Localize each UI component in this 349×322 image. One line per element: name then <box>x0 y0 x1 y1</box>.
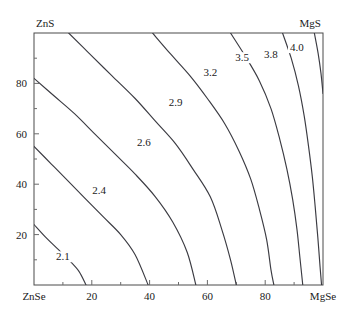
plot-frame <box>34 33 323 285</box>
y-axis-tick-label: 20 <box>16 229 28 241</box>
contour-line <box>231 33 303 285</box>
contour-label: 3.8 <box>264 48 278 60</box>
x-axis-tick-label: 60 <box>202 290 214 302</box>
contour-line <box>34 146 148 285</box>
contour-label: 3.5 <box>235 51 249 63</box>
y-axis-tick-label: 80 <box>16 77 28 89</box>
contour-chart: ZnSe20406080MgSe20406080ZnSMgS2.12.42.62… <box>0 0 349 322</box>
y-axis-tick-label: 40 <box>16 178 28 190</box>
x-axis-tick-label: 20 <box>86 290 98 302</box>
contour-label: 3.2 <box>203 66 217 78</box>
corner-label-top-right: MgS <box>300 17 321 29</box>
contour-layer <box>34 33 323 285</box>
corner-label-top-left: ZnS <box>36 17 54 29</box>
x-axis-tick-label: 80 <box>260 290 272 302</box>
contour-label: 2.1 <box>56 250 70 262</box>
contour-label: 2.4 <box>92 184 106 196</box>
y-axis-tick-label: 60 <box>16 128 28 140</box>
corner-label: ZnSe <box>22 290 45 302</box>
chart-canvas: ZnSe20406080MgSe20406080ZnSMgS2.12.42.62… <box>0 0 349 322</box>
x-axis-tick-label: 40 <box>144 290 156 302</box>
contour-label: 4.0 <box>290 41 304 53</box>
contour-line <box>314 33 323 93</box>
contour-line <box>283 33 322 285</box>
contour-label: 2.6 <box>137 136 151 148</box>
corner-label: MgSe <box>310 290 336 302</box>
contour-label: 2.9 <box>169 96 183 108</box>
